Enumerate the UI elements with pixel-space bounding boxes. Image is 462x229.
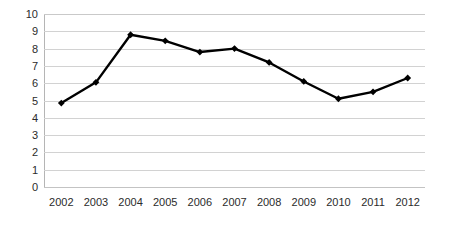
x-tick-label: 2005 — [153, 196, 177, 209]
y-tick-label: 7 — [0, 60, 38, 71]
y-tick-label: 5 — [0, 95, 38, 106]
y-tick-label: 8 — [0, 43, 38, 54]
y-tick-label: 9 — [0, 26, 38, 37]
x-tick-label: 2008 — [257, 196, 281, 209]
line-chart: 012345678910 200220032004200520062007200… — [0, 0, 462, 229]
data-point-marker — [196, 49, 203, 56]
x-axis: 2002200320042005200620072008200920102011… — [44, 196, 425, 216]
x-tick-label: 2003 — [84, 196, 108, 209]
data-point-marker — [231, 45, 238, 52]
data-series — [44, 14, 425, 187]
x-tick-label: 2011 — [361, 196, 385, 209]
data-point-marker — [370, 88, 377, 95]
plot-area — [44, 14, 425, 187]
x-tick-label: 2002 — [49, 196, 73, 209]
y-tick-label: 2 — [0, 147, 38, 158]
y-tick-label: 6 — [0, 78, 38, 89]
y-tick-label: 1 — [0, 164, 38, 175]
series-line — [61, 35, 407, 103]
x-tick-label: 2007 — [222, 196, 246, 209]
y-tick-label: 4 — [0, 112, 38, 123]
x-tick-label: 2012 — [395, 196, 419, 209]
x-tick-label: 2009 — [292, 196, 316, 209]
y-tick-label: 3 — [0, 130, 38, 141]
gridline — [44, 187, 425, 188]
y-tick-label: 0 — [0, 182, 38, 193]
x-tick-label: 2004 — [118, 196, 142, 209]
x-tick-label: 2006 — [188, 196, 212, 209]
data-point-marker — [162, 37, 169, 44]
data-point-marker — [404, 75, 411, 82]
y-axis: 012345678910 — [0, 0, 38, 229]
x-tick-label: 2010 — [326, 196, 350, 209]
y-tick-label: 10 — [0, 9, 38, 20]
